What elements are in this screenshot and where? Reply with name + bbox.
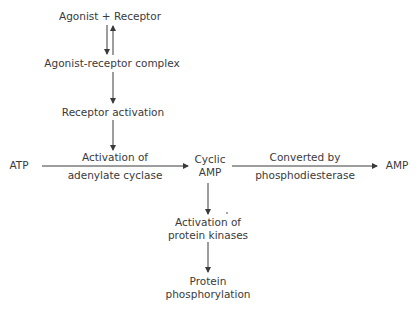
node-receptor-activation: Receptor activation: [62, 106, 164, 119]
node-cyclic-amp-line1: Cyclic: [195, 153, 226, 166]
node-agonist-receptor: Agonist + Receptor: [59, 10, 161, 23]
edge-label-pde-top: Converted by: [270, 151, 341, 164]
edge-label-cyclase-bottom: adenylate cyclase: [68, 169, 163, 182]
node-atp: ATP: [9, 159, 28, 172]
node-agonist-receptor-complex: Agonist-receptor complex: [44, 57, 179, 70]
edge-label-pde-bottom: phosphodiesterase: [255, 169, 355, 182]
node-kinases-line1: Activation of: [175, 216, 241, 229]
node-kinases-line2: protein kinases: [168, 229, 248, 242]
stray-dot: [226, 212, 228, 214]
node-phosphorylation-line2: phosphorylation: [166, 288, 251, 301]
node-cyclic-amp-line2: AMP: [199, 166, 222, 179]
edge-label-cyclase-top: Activation of: [82, 151, 148, 164]
node-phosphorylation-line1: Protein: [190, 275, 227, 288]
node-amp: AMP: [386, 159, 409, 172]
